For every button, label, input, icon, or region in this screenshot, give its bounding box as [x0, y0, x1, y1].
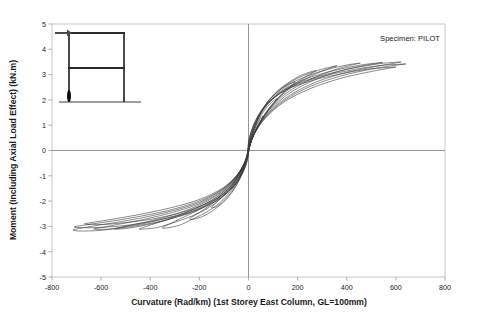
y-tick-label: 0 [42, 146, 46, 155]
x-tick-label: 800 [439, 283, 451, 292]
specimen-annotation: Specimen: PILOT [380, 34, 440, 43]
x-tick-label: 0 [247, 283, 251, 292]
x-tick-label: -400 [143, 283, 157, 292]
x-tick-label: -200 [192, 283, 206, 292]
y-tick-label: -5 [40, 273, 46, 282]
y-tick-label: 1 [42, 121, 46, 130]
x-tick-label: -800 [45, 283, 59, 292]
y-tick-label: -1 [40, 172, 46, 181]
y-tick-label: -4 [40, 248, 46, 257]
y-tick-label: 3 [42, 70, 46, 79]
y-axis-title: Moment (Including Axial Load Effect) (kN… [8, 60, 18, 240]
x-tick-label: -600 [94, 283, 108, 292]
hysteresis-chart-figure: -800-600-400-2000200400600800 -5-4-3-2-1… [0, 0, 477, 323]
moment-curvature-chart: -800-600-400-2000200400600800 -5-4-3-2-1… [0, 0, 477, 323]
x-tick-label: 400 [341, 283, 353, 292]
x-axis-title: Curvature (Rad/km) (1st Storey East Colu… [131, 297, 367, 307]
y-tick-label: 4 [42, 45, 46, 54]
y-tick-label: 2 [42, 96, 46, 105]
y-tick-label: 5 [42, 20, 46, 29]
x-tick-label: 200 [292, 283, 304, 292]
y-tick-label: -2 [40, 197, 46, 206]
y-tick-label: -3 [40, 222, 46, 231]
chart-background [0, 0, 477, 323]
gauge-location-marker-icon [67, 90, 71, 102]
x-tick-label: 600 [390, 283, 402, 292]
